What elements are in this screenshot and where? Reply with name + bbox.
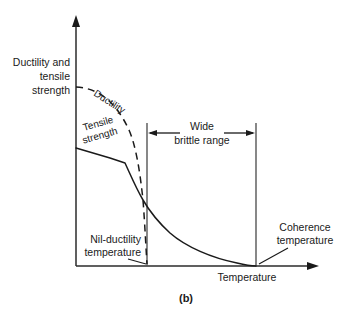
tensile-strength-curve-label: Tensile strength bbox=[78, 113, 119, 145]
x-axis-group bbox=[76, 262, 319, 270]
y-axis-label-line-1: Ductility and bbox=[13, 56, 70, 68]
coherence-label-line-2: temperature bbox=[277, 234, 334, 246]
up-arrow-icon bbox=[72, 15, 80, 27]
ductility-curve-label-text: Ductility bbox=[92, 87, 127, 115]
coherence-label-line-1: Coherence bbox=[279, 221, 331, 233]
x-axis-label: Temperature bbox=[218, 271, 277, 283]
coherence-callout: Coherence temperature bbox=[259, 221, 333, 264]
left-arrow-icon bbox=[148, 130, 157, 136]
y-axis-label-line-2: tensile bbox=[40, 70, 71, 82]
nil-ductility-callout: Nil-ductility temperature bbox=[84, 233, 146, 264]
brittle-range-label-line-1: Wide bbox=[190, 120, 214, 132]
ductility-curve-label: Ductility bbox=[92, 87, 127, 115]
nil-ductility-leader-line bbox=[128, 259, 146, 264]
y-axis-label-line-3: strength bbox=[32, 84, 70, 96]
right-arrow-icon bbox=[307, 262, 319, 270]
right-arrow-icon-range bbox=[246, 130, 255, 136]
figure-container: Ductility and tensile strength Temperatu… bbox=[0, 0, 343, 321]
brittle-range-label: Wide brittle range bbox=[174, 120, 230, 146]
ductility-temperature-diagram: Ductility and tensile strength Temperatu… bbox=[0, 0, 343, 321]
y-axis-label: Ductility and tensile strength bbox=[13, 56, 70, 96]
brittle-range-label-line-2: brittle range bbox=[174, 134, 230, 146]
coherence-leader-line bbox=[259, 248, 288, 264]
y-axis-group bbox=[72, 15, 80, 266]
figure-caption: (b) bbox=[179, 292, 193, 304]
nil-ductility-label-line-2: temperature bbox=[84, 246, 141, 258]
nil-ductility-label-line-1: Nil-ductility bbox=[90, 233, 142, 245]
